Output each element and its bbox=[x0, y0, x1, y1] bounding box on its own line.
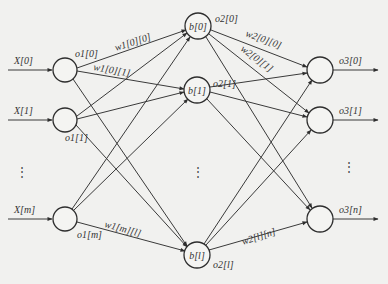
input-arrows bbox=[8, 70, 52, 219]
neural-network-diagram: b[0] b[1] b[l] X[0] X[1] X[m] o1[0] o1[1… bbox=[0, 0, 388, 284]
o1-label-m: o1[m] bbox=[77, 229, 102, 240]
ellipsis-output: ⋮ bbox=[343, 160, 355, 174]
input-layer bbox=[53, 58, 77, 231]
weight-label-w2-l-n: w2[l][n] bbox=[240, 226, 277, 247]
ellipsis-input: ⋮ bbox=[16, 165, 28, 179]
o2-label-l: o2[l] bbox=[213, 259, 234, 270]
input-node-1 bbox=[53, 108, 77, 132]
ellipsis-hidden: ⋮ bbox=[192, 165, 204, 179]
output-node-1 bbox=[307, 107, 333, 133]
hidden-node-1-label: b[1] bbox=[188, 85, 206, 96]
output-node-0 bbox=[307, 57, 333, 83]
o3-label-1: o3[1] bbox=[339, 105, 362, 116]
weight-label-w1-0-1: w1[0][1] bbox=[93, 61, 132, 78]
input-hidden-edges bbox=[72, 30, 190, 251]
o3-label-0: o3[0] bbox=[339, 55, 362, 66]
o2-label-1: o2[1] bbox=[213, 78, 236, 89]
input-label-x0: X[0] bbox=[13, 55, 33, 66]
input-node-m bbox=[53, 207, 77, 231]
output-arrows bbox=[333, 70, 378, 219]
weight-label-w1-m-l: w1[m][l] bbox=[103, 218, 142, 238]
hidden-layer bbox=[184, 13, 211, 268]
weight-label-w1-0-0: w1[0][0] bbox=[113, 31, 152, 53]
input-node-0 bbox=[53, 58, 77, 82]
input-label-xm: X[m] bbox=[13, 204, 35, 215]
o1-label-1: o1[1] bbox=[65, 132, 88, 143]
hidden-node-0-label: b[0] bbox=[189, 21, 207, 32]
o2-label-0: o2[0] bbox=[215, 13, 238, 24]
o1-label-0: o1[0] bbox=[75, 48, 98, 59]
o3-label-n: o3[n] bbox=[339, 204, 362, 215]
input-label-x1: X[1] bbox=[13, 105, 33, 116]
hidden-node-l-label: b[l] bbox=[189, 250, 205, 261]
output-node-n bbox=[307, 206, 333, 232]
